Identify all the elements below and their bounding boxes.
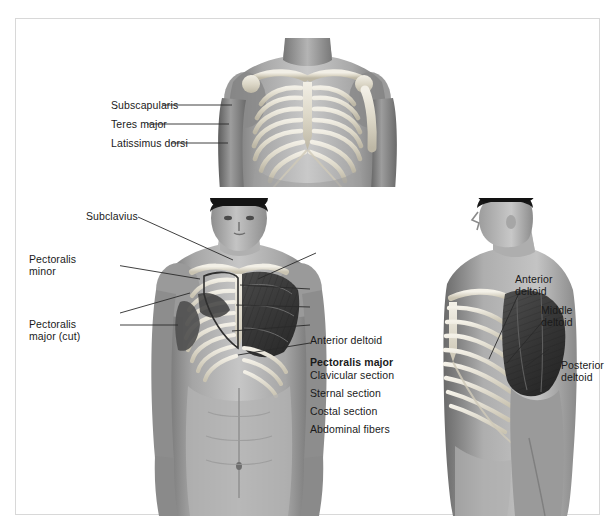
- neck-shape: [283, 38, 332, 66]
- label-posterior-deltoid-line1: Posterior: [561, 359, 615, 371]
- label-pectoralis-minor: Pectoralis minor: [29, 253, 103, 277]
- label-pectoralis-minor-line2: minor: [29, 265, 103, 277]
- label-middle-deltoid: Middle deltoid: [541, 304, 599, 328]
- label-anterior-deltoid-line2: deltoid: [515, 285, 577, 297]
- right-panel: [401, 197, 599, 516]
- anatomy-figure: Subscapularis Teres major Latissimus dor…: [0, 0, 615, 531]
- label-pectoralis-minor-line1: Pectoralis: [29, 253, 103, 265]
- left-arm: [218, 98, 246, 187]
- head: [479, 198, 533, 247]
- label-posterior-deltoid: Posterior deltoid: [561, 359, 615, 383]
- left-humeral-head: [242, 75, 260, 93]
- top-panel-illustration: [215, 38, 400, 187]
- label-anterior-deltoid: Anterior deltoid: [515, 273, 577, 297]
- label-posterior-deltoid-line2: deltoid: [561, 371, 615, 383]
- label-costal-section: Costal section: [310, 405, 377, 417]
- upper-arm: [510, 388, 564, 516]
- right-eye: [246, 216, 254, 220]
- label-pectoralis-major: Pectoralis major: [310, 356, 393, 368]
- label-latissimus-dorsi: Latissimus dorsi: [111, 137, 188, 149]
- label-clavicular-section: Clavicular section: [310, 369, 394, 381]
- label-teres-major: Teres major: [111, 118, 167, 130]
- middle-panel: [120, 197, 331, 516]
- figure-frame: Subscapularis Teres major Latissimus dor…: [15, 18, 600, 515]
- label-pectoralis-major-cut-line1: Pectoralis: [29, 318, 113, 330]
- label-sternal-section: Sternal section: [310, 387, 381, 399]
- middle-panel-illustration: [146, 198, 331, 516]
- ear: [506, 215, 516, 229]
- label-middle-deltoid-line1: Middle: [541, 304, 599, 316]
- label-anterior-deltoid-front: Anterior deltoid: [310, 334, 382, 346]
- navel: [236, 462, 242, 470]
- sternum: [235, 274, 243, 348]
- label-middle-deltoid-line2: deltoid: [541, 316, 599, 328]
- hair-top: [477, 198, 535, 202]
- hair-top: [210, 198, 268, 206]
- facial-profile: [472, 212, 479, 230]
- label-abdominal-fibers: Abdominal fibers: [310, 423, 390, 435]
- left-eye: [224, 216, 232, 220]
- label-pectoralis-major-cut: Pectoralis major (cut): [29, 318, 113, 342]
- top-panel: Subscapularis Teres major Latissimus dor…: [16, 19, 599, 187]
- right-panel-illustration: [431, 198, 596, 516]
- label-subscapularis: Subscapularis: [111, 99, 178, 111]
- label-pectoralis-major-cut-line2: major (cut): [29, 330, 113, 342]
- label-subclavius: Subclavius: [86, 210, 138, 222]
- label-anterior-deltoid-line1: Anterior: [515, 273, 577, 285]
- sternum: [303, 82, 312, 150]
